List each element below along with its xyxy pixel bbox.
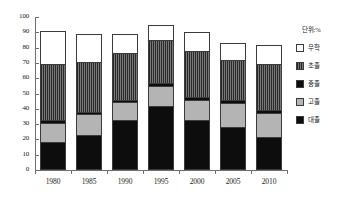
x-tick-mark: [287, 170, 288, 174]
bar-1980: [40, 17, 66, 170]
y-tick-mark: [35, 48, 39, 49]
y-tick-label: 40: [22, 104, 29, 112]
legend-item-중졸[interactable]: 중졸: [296, 79, 344, 88]
bar-1990: [112, 17, 138, 170]
x-tick-mark: [71, 170, 72, 174]
legend-label: 초졸: [308, 62, 320, 70]
legend-label: 중졸: [308, 80, 320, 88]
bar-segment-무학: [256, 45, 282, 65]
bar-segment-초졸: [148, 40, 174, 83]
legend: 단위:% 무학초졸중졸고졸대졸: [296, 26, 344, 133]
bar-segment-무학: [40, 31, 66, 65]
x-tick-mark: [179, 170, 180, 174]
stacked-bar-chart: 0102030405060708090100 19801985199019952…: [0, 0, 346, 200]
bar-segment-고졸: [148, 86, 174, 106]
bar-segment-초졸: [112, 53, 138, 100]
bar-segment-고졸: [256, 113, 282, 137]
legend-items: 무학초졸중졸고졸대졸: [296, 43, 344, 124]
bar-segment-대졸: [184, 120, 210, 170]
legend-label: 고졸: [308, 98, 320, 106]
x-axis-label-1990: 1990: [105, 177, 145, 186]
bar-2010: [256, 17, 282, 170]
x-axis-label-1995: 1995: [141, 177, 181, 186]
bar-1985: [76, 17, 102, 170]
x-axis-label-2010: 2010: [249, 177, 289, 186]
legend-label: 대졸: [308, 116, 320, 124]
y-tick-mark: [35, 139, 39, 140]
bar-segment-대졸: [40, 142, 66, 170]
y-tick-label: 100: [19, 12, 29, 20]
y-tick-mark: [35, 94, 39, 95]
x-axis-label-1985: 1985: [69, 177, 109, 186]
y-tick-mark: [35, 78, 39, 79]
legend-swatch-icon: [296, 116, 304, 124]
bar-segment-초졸: [184, 51, 210, 96]
bar-segment-중졸: [256, 110, 282, 114]
bar-segment-대졸: [76, 135, 102, 170]
y-tick-label: 80: [22, 43, 29, 51]
bar-2000: [184, 17, 210, 170]
y-tick-label: 0: [26, 165, 29, 173]
y-tick-label: 10: [22, 150, 29, 158]
bar-segment-고졸: [76, 114, 102, 135]
bar-segment-무학: [184, 32, 210, 51]
bar-segment-무학: [76, 34, 102, 62]
bar-segment-무학: [112, 34, 138, 53]
legend-label: 무학: [308, 44, 320, 52]
y-tick-mark: [35, 109, 39, 110]
legend-swatch-icon: [296, 98, 304, 106]
legend-swatch-icon: [296, 44, 304, 52]
bar-segment-중졸: [220, 100, 246, 103]
bar-segment-중졸: [148, 83, 174, 86]
plot-area: 0102030405060708090100 19801985199019952…: [35, 17, 287, 170]
y-tick-label: 60: [22, 73, 29, 81]
bar-segment-대졸: [112, 120, 138, 170]
x-axis-label-2005: 2005: [213, 177, 253, 186]
legend-item-초졸[interactable]: 초졸: [296, 61, 344, 70]
bar-1995: [148, 17, 174, 170]
bar-segment-초졸: [220, 60, 246, 100]
bar-segment-대졸: [220, 127, 246, 170]
legend-unit-note: 단위:%: [302, 26, 344, 34]
bar-segment-중졸: [184, 97, 210, 100]
x-tick-mark: [35, 170, 36, 174]
bar-segment-고졸: [220, 103, 246, 127]
x-tick-mark: [143, 170, 144, 174]
bar-segment-중졸: [76, 112, 102, 114]
y-tick-label: 30: [22, 119, 29, 127]
y-tick-mark: [35, 124, 39, 125]
legend-item-무학[interactable]: 무학: [296, 43, 344, 52]
bar-segment-대졸: [256, 137, 282, 170]
x-axis-label-2000: 2000: [177, 177, 217, 186]
bar-segment-무학: [220, 43, 246, 60]
y-tick-mark: [35, 32, 39, 33]
legend-item-대졸[interactable]: 대졸: [296, 115, 344, 124]
y-tick-mark: [35, 17, 39, 18]
bar-segment-고졸: [184, 100, 210, 121]
x-axis-label-1980: 1980: [33, 177, 73, 186]
bar-segment-대졸: [148, 106, 174, 170]
y-tick-label: 90: [22, 27, 29, 35]
y-tick-label: 70: [22, 58, 29, 66]
bar-segment-초졸: [76, 62, 102, 112]
legend-swatch-icon: [296, 80, 304, 88]
x-axis-line: [35, 170, 287, 171]
y-tick-label: 20: [22, 134, 29, 142]
y-tick-label: 50: [22, 89, 29, 97]
bar-segment-고졸: [40, 123, 66, 143]
x-tick-mark: [215, 170, 216, 174]
legend-item-고졸[interactable]: 고졸: [296, 97, 344, 106]
bar-segment-중졸: [40, 120, 66, 123]
y-tick-mark: [35, 155, 39, 156]
bar-segment-초졸: [256, 64, 282, 109]
bar-segment-무학: [148, 25, 174, 40]
bar-segment-고졸: [112, 102, 138, 120]
x-tick-mark: [251, 170, 252, 174]
legend-swatch-icon: [296, 62, 304, 70]
y-tick-mark: [35, 63, 39, 64]
x-tick-mark: [107, 170, 108, 174]
bar-segment-중졸: [112, 100, 138, 102]
bar-segment-초졸: [40, 64, 66, 119]
bar-2005: [220, 17, 246, 170]
